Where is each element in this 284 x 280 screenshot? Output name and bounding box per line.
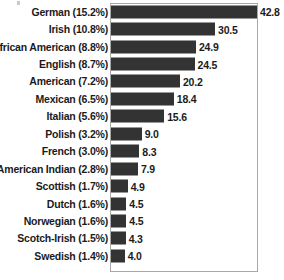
value-label: 8.3 <box>142 145 156 157</box>
bar <box>111 145 139 158</box>
value-label: 42.8 <box>260 6 280 18</box>
bar-and-value: 4.0 <box>111 249 142 262</box>
bar <box>111 197 126 210</box>
bar-and-value: 30.5 <box>111 23 238 36</box>
value-label: 24.9 <box>199 41 219 53</box>
bar-row: American Indian (2.8%)7.9 <box>0 160 284 177</box>
bar <box>111 5 257 18</box>
category-label: Swedish (1.4%) <box>34 250 108 262</box>
category-label: Polish (3.2%) <box>45 128 108 140</box>
value-label: 7.9 <box>141 163 155 175</box>
value-label: 4.5 <box>129 198 143 210</box>
bar-and-value: 24.9 <box>111 40 219 53</box>
category-label: American (7.2%) <box>29 75 108 87</box>
category-label: African American (8.8%) <box>0 41 108 53</box>
bar-row: Dutch (1.6%)4.5 <box>0 195 284 212</box>
bar-and-value: 4.5 <box>111 197 143 210</box>
bar-row: English (8.7%)24.5 <box>0 55 284 72</box>
value-label: 24.5 <box>198 58 218 70</box>
bar-row: African American (8.8%)24.9 <box>0 38 284 55</box>
value-label: 4.3 <box>129 232 143 244</box>
bar-and-value: 4.9 <box>111 180 145 193</box>
value-label: 20.2 <box>183 75 203 87</box>
bar <box>111 249 125 262</box>
category-label: English (8.7%) <box>39 58 108 70</box>
bar-row: Italian (5.6%)15.6 <box>0 108 284 125</box>
bar-and-value: 7.9 <box>111 162 155 175</box>
bar <box>111 232 126 245</box>
category-label: Dutch (1.6%) <box>47 198 108 210</box>
bar-row: Norwegian (1.6%)4.5 <box>0 212 284 229</box>
category-label: Scottish (1.7%) <box>36 180 108 192</box>
category-label: Irish (10.8%) <box>49 23 108 35</box>
category-label: Mexican (6.5%) <box>36 93 108 105</box>
bar-row: Swedish (1.4%)4.0 <box>0 247 284 264</box>
bar-and-value: 15.6 <box>111 110 187 123</box>
bar-row: Scottish (1.7%)4.9 <box>0 177 284 194</box>
bar <box>111 23 215 36</box>
bar <box>111 180 128 193</box>
bar-row: French (3.0%)8.3 <box>0 143 284 160</box>
bar <box>111 75 180 88</box>
bar-and-value: 4.3 <box>111 232 143 245</box>
bar-and-value: 4.5 <box>111 214 143 227</box>
bar <box>111 58 195 71</box>
category-label: Scotch-Irish (1.5%) <box>17 232 108 244</box>
bar-rows-container: German (15.2%)42.8Irish (10.8%)30.5Afric… <box>0 3 284 272</box>
bar-row: German (15.2%)42.8 <box>0 3 284 20</box>
ancestry-bar-chart: German (15.2%)42.8Irish (10.8%)30.5Afric… <box>0 0 284 280</box>
bar-row: Mexican (6.5%)18.4 <box>0 90 284 107</box>
bar-row: Scotch-Irish (1.5%)4.3 <box>0 230 284 247</box>
category-label: Norwegian (1.6%) <box>24 215 108 227</box>
category-label: Italian (5.6%) <box>47 110 108 122</box>
value-label: 4.0 <box>128 250 142 262</box>
category-label: German (15.2%) <box>31 6 108 18</box>
value-label: 18.4 <box>177 93 197 105</box>
bar <box>111 40 196 53</box>
bar <box>111 127 142 140</box>
category-label: French (3.0%) <box>42 145 108 157</box>
bar-row: Polish (3.2%)9.0 <box>0 125 284 142</box>
bar-row: American (7.2%)20.2 <box>0 73 284 90</box>
bar <box>111 92 174 105</box>
bar <box>111 110 164 123</box>
bar-and-value: 18.4 <box>111 92 196 105</box>
bar <box>111 162 138 175</box>
bar-and-value: 9.0 <box>111 127 159 140</box>
bar-and-value: 20.2 <box>111 75 203 88</box>
value-label: 30.5 <box>218 23 238 35</box>
bar-and-value: 8.3 <box>111 145 156 158</box>
bar <box>111 214 126 227</box>
value-label: 9.0 <box>145 128 159 140</box>
bar-row: Irish (10.8%)30.5 <box>0 20 284 37</box>
bar-and-value: 24.5 <box>111 58 217 71</box>
value-label: 4.5 <box>129 215 143 227</box>
bar-and-value: 42.8 <box>111 5 280 18</box>
value-label: 15.6 <box>167 110 187 122</box>
value-label: 4.9 <box>131 180 145 192</box>
category-label: American Indian (2.8%) <box>0 163 108 175</box>
